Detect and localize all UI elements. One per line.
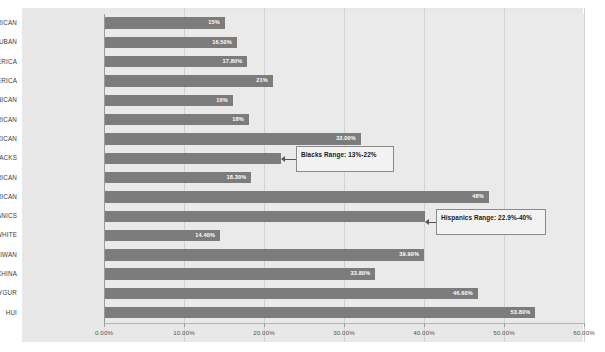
x-tick-mark (584, 323, 585, 327)
bar-row: SOUTH AMERICA17.80% (22, 53, 583, 71)
callout-arrow-icon (425, 219, 429, 225)
bar[interactable] (105, 133, 361, 144)
category-label: HUI (6, 304, 17, 322)
category-label: DOMINICAN (0, 91, 17, 109)
bar-value-label: 33.80% (351, 268, 371, 279)
bar-row: CUBAN16.50% (22, 33, 583, 51)
bar[interactable] (105, 95, 233, 106)
bar-row: CENTRAL AMERICA21% (22, 72, 583, 90)
bar-value-label: 48% (472, 191, 484, 202)
bar[interactable] (105, 114, 249, 125)
category-label: ASIAN AMERICAN (0, 169, 17, 187)
bar[interactable] (105, 211, 425, 222)
x-tick-mark (264, 323, 265, 327)
bar-value-label: 21% (256, 75, 268, 86)
category-label: SOUTH AMERICA (0, 53, 17, 71)
bar-value-label: 14.40% (195, 230, 215, 241)
bar-value-label: 32.00% (336, 133, 356, 144)
chart-frame: 0.00%10.00%20.00%30.00%40.00%50.00%60.00… (22, 8, 583, 342)
x-tick-mark (504, 323, 505, 327)
bar-row: HUI53.80% (22, 304, 583, 322)
category-label: PUERTO RICAN (0, 111, 17, 129)
bar-row: UYGUR46.60% (22, 284, 583, 302)
bar-value-label: 15% (208, 17, 220, 28)
bar-row: PUERTO RICAN15% (22, 14, 583, 32)
bar-value-label: 53.80% (511, 307, 531, 318)
hispanics-range-callout[interactable]: Hispanics Range: 22.9%-40% (436, 209, 546, 235)
category-label: MEXICAN (0, 130, 17, 148)
bar-row: N.W CHINA33.80% (22, 265, 583, 283)
bar[interactable] (105, 268, 375, 279)
category-label: TAIWAN (0, 246, 17, 264)
category-label: AMERICAN WHITE (0, 226, 17, 244)
bar[interactable] (105, 75, 273, 86)
category-label: UYGUR (0, 284, 17, 302)
bar-value-label: 17.80% (223, 56, 243, 67)
x-tick-label: 60.00% (573, 329, 595, 336)
x-tick-label: 50.00% (493, 329, 515, 336)
bar-value-label: 39.90% (399, 249, 419, 260)
category-label: BLACKS (0, 149, 17, 167)
blacks-range-callout[interactable]: Blacks Range: 13%-22% (296, 146, 394, 172)
callout-leader-line (429, 222, 436, 223)
callout-leader-line (285, 159, 296, 160)
x-tick-mark (184, 323, 185, 327)
bar-value-label: 46.60% (453, 288, 473, 299)
x-tick-mark (424, 323, 425, 327)
bar-value-label: 16.50% (212, 37, 232, 48)
category-label: CENTRAL AMERICA (0, 72, 17, 90)
bar[interactable] (105, 191, 489, 202)
bar-row: PUERTO RICAN18% (22, 111, 583, 129)
bar[interactable] (105, 307, 535, 318)
x-tick-label: 30.00% (333, 329, 355, 336)
category-label: N.W CHINA (0, 265, 17, 283)
bar[interactable] (105, 17, 225, 28)
bar-row: DOMINICAN16% (22, 91, 583, 109)
category-label: PUERTO RICAN (0, 14, 17, 32)
bar-row: TAIWAN39.90% (22, 246, 583, 264)
x-tick-mark (104, 323, 105, 327)
bar-value-label: 16% (216, 95, 228, 106)
category-label: HISPANICS (0, 207, 17, 225)
x-tick-label: 0.00% (95, 329, 113, 336)
bar-value-label: 18.30% (227, 172, 247, 183)
bar[interactable] (105, 288, 478, 299)
x-tick-label: 10.00% (173, 329, 195, 336)
bar-row: MEXICAN AMERICAN48% (22, 188, 583, 206)
x-tick-mark (344, 323, 345, 327)
category-label: CUBAN (0, 33, 17, 51)
bar[interactable] (105, 153, 281, 164)
category-label: MEXICAN AMERICAN (0, 188, 17, 206)
callout-arrow-icon (281, 156, 285, 162)
x-tick-label: 40.00% (413, 329, 435, 336)
x-tick-label: 20.00% (253, 329, 275, 336)
bar[interactable] (105, 249, 424, 260)
gridline (584, 8, 585, 342)
bar-value-label: 18% (232, 114, 244, 125)
